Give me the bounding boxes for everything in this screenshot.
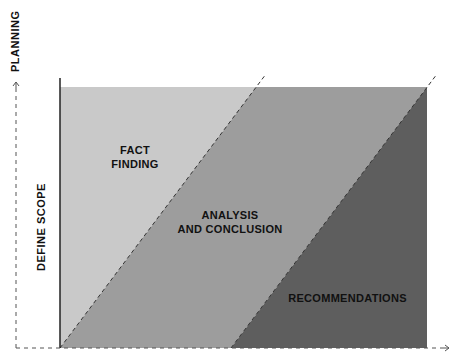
analysis-line2: AND CONCLUSION xyxy=(170,222,290,236)
analysis-label: ANALYSIS AND CONCLUSION xyxy=(170,208,290,236)
fact-finding-line1: FACT xyxy=(95,143,175,157)
recommendations-label: RECOMMENDATIONS xyxy=(285,291,410,305)
define-scope-label: DEFINE SCOPE xyxy=(35,183,47,271)
y-axis-arrow-icon xyxy=(13,82,19,92)
x-axis-arrow-icon xyxy=(440,345,449,351)
y-axis-label-planning: PLANNING xyxy=(9,11,21,72)
fact-finding-line2: FINDING xyxy=(95,157,175,171)
fact-finding-label: FACT FINDING xyxy=(95,143,175,171)
phase-diagram xyxy=(0,0,452,364)
analysis-line1: ANALYSIS xyxy=(170,208,290,222)
